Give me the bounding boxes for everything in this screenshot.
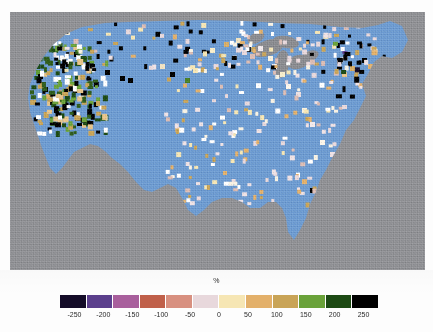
- colorbar: % -250-200-150-100-50050100150200250: [0, 276, 433, 332]
- map-grain-overlay: [10, 12, 425, 270]
- colorbar-segment: [139, 295, 166, 308]
- colorbar-gradient: [60, 295, 378, 308]
- colorbar-segment: [112, 295, 139, 308]
- colorbar-tick-label: -50: [185, 310, 195, 320]
- colorbar-segment: [218, 295, 245, 308]
- colorbar-tick-label: 100: [271, 310, 283, 320]
- colorbar-tick-label: 200: [329, 310, 341, 320]
- colorbar-segment: [192, 295, 219, 308]
- colorbar-tick-label: 50: [244, 310, 252, 320]
- colorbar-segment: [86, 295, 113, 308]
- colorbar-segment: [325, 295, 352, 308]
- colorbar-segment: [351, 295, 378, 308]
- colorbar-tick-label: -250: [67, 310, 81, 320]
- colorbar-ticks: -250-200-150-100-50050100150200250: [60, 310, 378, 322]
- colorbar-segment: [272, 295, 299, 308]
- colorbar-segment: [298, 295, 325, 308]
- map-panel: [10, 12, 425, 270]
- colorbar-title: %: [0, 276, 433, 285]
- colorbar-tick-label: -200: [96, 310, 110, 320]
- colorbar-tick-label: 250: [358, 310, 370, 320]
- figure-root: % -250-200-150-100-50050100150200250: [0, 0, 433, 332]
- colorbar-segment: [245, 295, 272, 308]
- colorbar-tick-label: 150: [300, 310, 312, 320]
- colorbar-segment: [60, 295, 86, 308]
- us-map-svg: [10, 12, 425, 270]
- colorbar-tick-label: 0: [217, 310, 221, 320]
- colorbar-segment: [165, 295, 192, 308]
- colorbar-tick-label: -100: [154, 310, 168, 320]
- colorbar-tick-label: -150: [125, 310, 139, 320]
